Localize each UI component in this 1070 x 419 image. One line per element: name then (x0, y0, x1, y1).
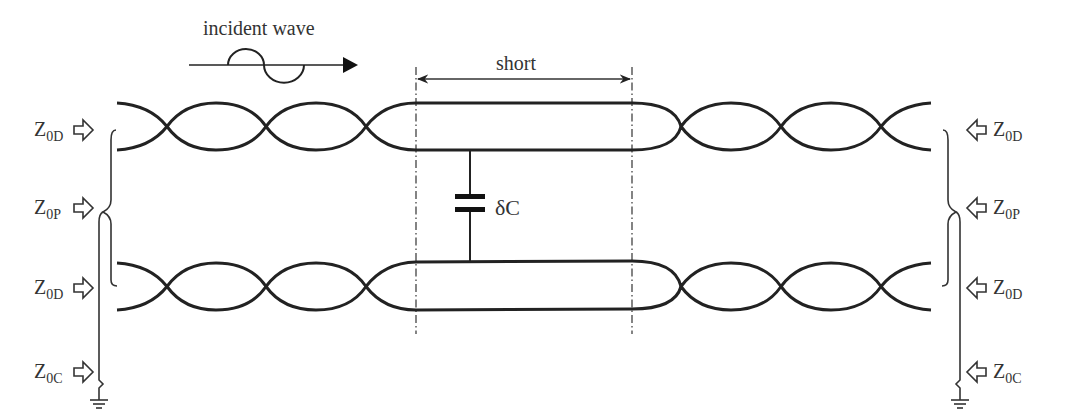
right-arrow-icon (74, 120, 93, 140)
right-label-z0d-bottom: Z0D (967, 276, 1022, 302)
left-brace-group (90, 130, 117, 408)
right-label-z0c: Z0C (967, 360, 1022, 386)
capacitor-label: δC (495, 195, 520, 220)
left-label-z0d-top: Z0D (34, 118, 93, 144)
right-label-z0d-top: Z0D (967, 118, 1022, 144)
differential-pair-short-diagram: incident wave short δC (0, 0, 1070, 419)
svg-text:Z0D: Z0D (34, 276, 63, 302)
svg-text:Z0D: Z0D (993, 118, 1022, 144)
right-label-z0p: Z0P (967, 196, 1020, 222)
right-arrow-icon (74, 198, 93, 218)
svg-text:Z0D: Z0D (34, 118, 63, 144)
incident-wave-label: incident wave (203, 17, 315, 39)
svg-text:Z0P: Z0P (993, 196, 1020, 222)
right-brace-group (942, 130, 969, 408)
left-arrow-icon (967, 120, 986, 140)
capacitor-icon (455, 150, 485, 262)
left-arrow-icon (967, 362, 986, 382)
right-arrow-icon (74, 362, 93, 382)
incident-wave-arrow-icon (189, 49, 358, 83)
left-label-z0c: Z0C (34, 360, 93, 386)
twisted-pair-bottom (117, 261, 931, 310)
left-arrow-icon (967, 198, 986, 218)
short-label: short (496, 52, 536, 74)
right-arrow-icon (74, 278, 93, 298)
left-arrow-icon (967, 278, 986, 298)
twisted-pair-top (117, 103, 931, 150)
svg-text:Z0P: Z0P (34, 196, 61, 222)
left-label-z0d-bottom: Z0D (34, 276, 93, 302)
svg-text:Z0D: Z0D (993, 276, 1022, 302)
left-label-z0p: Z0P (34, 196, 93, 222)
svg-text:Z0C: Z0C (34, 360, 63, 386)
svg-text:Z0C: Z0C (993, 360, 1022, 386)
